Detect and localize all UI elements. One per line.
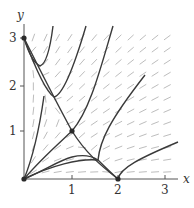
x-axis-label: x [183, 172, 190, 186]
equilibrium-0-3 [21, 35, 26, 40]
trajectory-origin-to-saddle [24, 26, 113, 179]
y-tick-3: 3 [9, 31, 17, 45]
phase-portrait: x y 1 2 3 1 2 3 [0, 0, 194, 208]
equilibrium-0-0 [21, 176, 26, 181]
x-tick-1: 1 [68, 183, 76, 197]
x-tick-2: 2 [114, 183, 122, 197]
trajectories [24, 26, 178, 179]
equilibrium-1-1 [69, 128, 74, 133]
equilibrium-2-0 [115, 176, 120, 181]
y-tick-2: 2 [9, 79, 17, 93]
y-axis-label: y [16, 8, 24, 22]
y-tick-1: 1 [9, 124, 17, 138]
direction-field [30, 34, 171, 174]
x-tick-3: 3 [161, 183, 169, 197]
